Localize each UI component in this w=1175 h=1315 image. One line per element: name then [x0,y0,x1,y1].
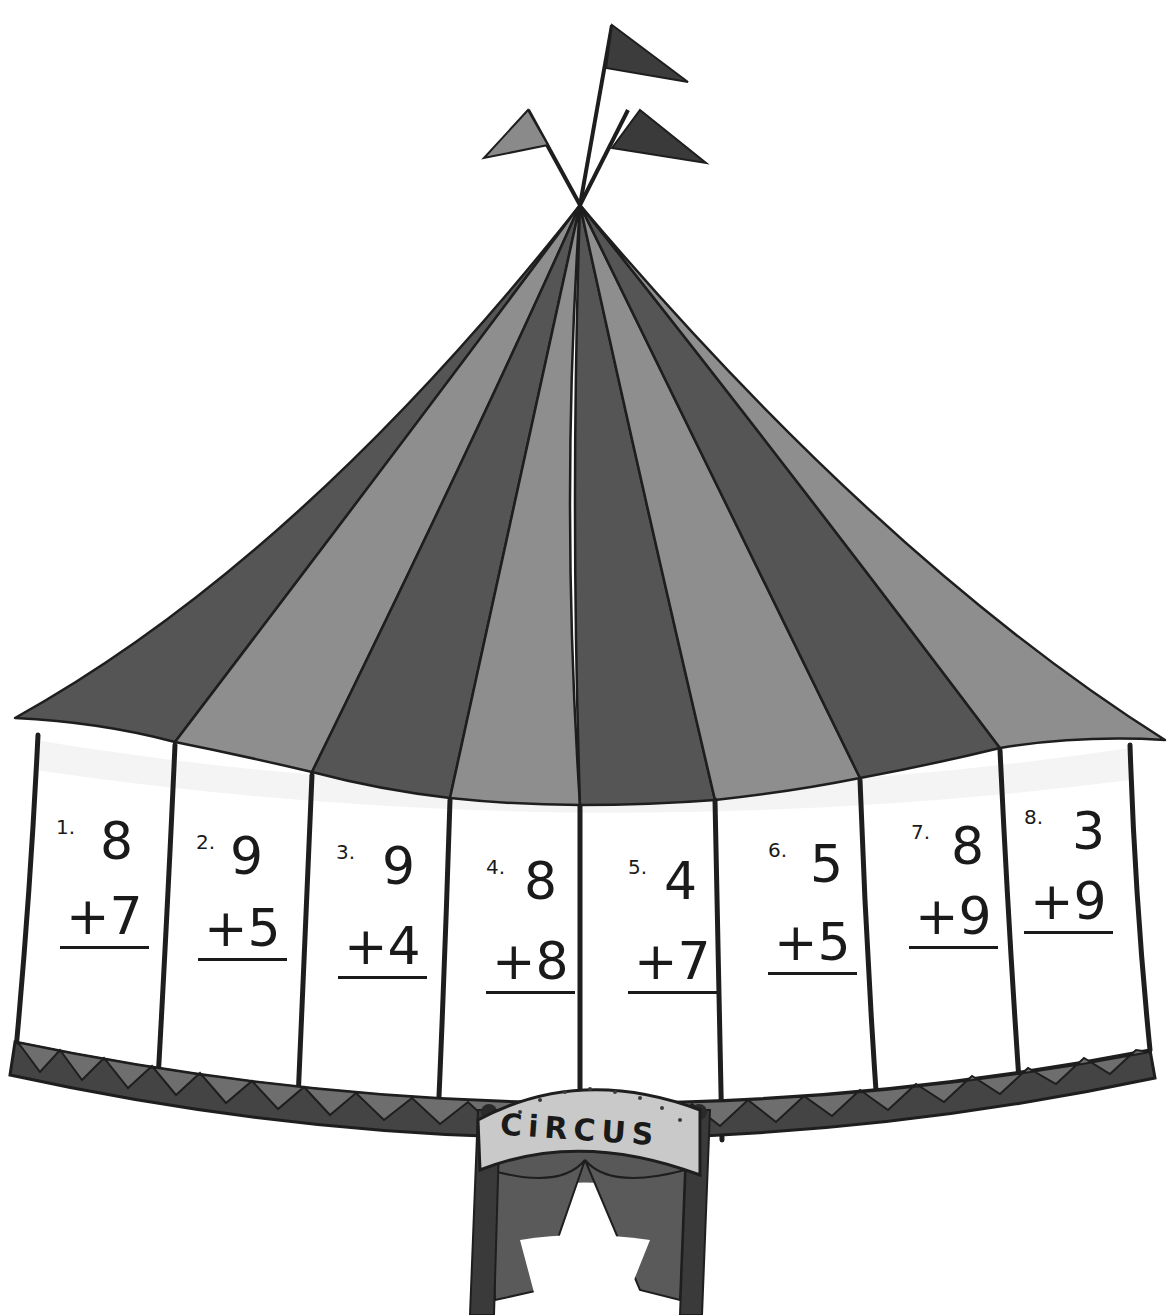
addend-top: 8 [951,820,984,872]
addend-bottom: +4 [338,920,427,979]
addend-top: 8 [100,815,133,867]
addend-bottom: +9 [909,890,998,949]
addend-bottom: +7 [60,890,149,949]
problem-number: 3. [336,840,355,864]
problem-number: 2. [196,830,215,854]
addend-top: 3 [1072,805,1105,857]
addend-bottom: +9 [1024,875,1113,934]
addend-bottom: +8 [486,935,575,994]
addend-top: 9 [382,840,415,892]
problem-number: 7. [911,820,930,844]
problem-number: 5. [628,855,647,879]
problem-number: 4. [486,855,505,879]
addend-top: 5 [810,838,843,890]
problem-number: 6. [768,838,787,862]
problem-number: 8. [1024,805,1043,829]
addend-bottom: +5 [768,916,857,975]
problem-number: 1. [56,815,75,839]
addend-top: 4 [664,855,697,907]
tent-roof [15,205,1165,805]
addend-top: 9 [230,830,263,882]
flags-icon [484,25,706,205]
addend-bottom: +5 [198,902,287,961]
addend-top: 8 [524,855,557,907]
addend-bottom: +7 [628,935,717,994]
